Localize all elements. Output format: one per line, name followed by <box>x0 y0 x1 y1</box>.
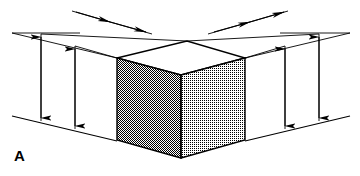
dimension-arrow-group-diagonal <box>76 12 284 32</box>
ground-line-left <box>12 116 117 141</box>
figure-panel-a: A <box>0 0 360 176</box>
dimension-arrow-top-right-upper <box>250 12 284 22</box>
dimension-arrow-top-left-inner <box>110 22 146 32</box>
guide-rail-mid-left <box>75 46 117 58</box>
dimension-arrow-top-left-upper <box>76 12 110 22</box>
guide-rail-mid-right <box>245 46 285 58</box>
isometric-cube <box>117 41 245 158</box>
guide-rail-apex-right <box>187 34 319 41</box>
guide-rail-apex-left <box>41 34 187 41</box>
ground-line-right <box>245 116 350 141</box>
dimension-arrow-top-right-inner <box>214 22 250 32</box>
cube-left-face <box>117 58 181 158</box>
panel-label: A <box>14 148 25 163</box>
cube-right-face <box>181 58 245 158</box>
isometric-cube-diagram <box>0 0 360 176</box>
